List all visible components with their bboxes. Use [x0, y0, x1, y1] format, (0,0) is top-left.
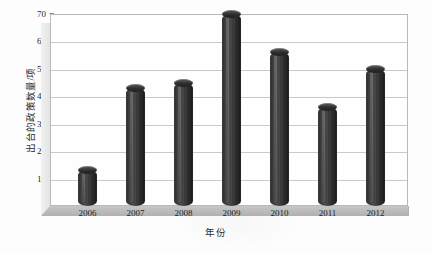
x-tick-label-2009: 2009 [209, 208, 255, 218]
bar-chart-figure: 出台的政策数量/项 0 10 20 30 40 50 60 70 [0, 0, 431, 253]
bar-highlight [274, 53, 277, 203]
bar-texture [366, 69, 385, 206]
bar-body [222, 14, 241, 206]
x-tick-label-2012: 2012 [353, 208, 399, 218]
bar-2010 [270, 52, 289, 206]
bar-top-cap [222, 10, 241, 18]
bar-highlight [178, 84, 181, 203]
bar-texture [126, 88, 145, 206]
bar-2011 [318, 107, 337, 206]
bar-highlight [370, 70, 373, 203]
bar-top-cap [366, 65, 385, 73]
bar-texture [270, 52, 289, 206]
plot-area [50, 14, 408, 206]
bar-body [270, 52, 289, 206]
bar-highlight [82, 171, 85, 203]
bar-texture [78, 170, 97, 206]
bar-highlight [226, 15, 229, 203]
bar-texture [174, 83, 193, 206]
x-tick-label-2010: 2010 [257, 208, 303, 218]
bar-body [174, 83, 193, 206]
bar-body [318, 107, 337, 206]
bar-body [366, 69, 385, 206]
x-axis-title: 年份 [0, 225, 431, 239]
bar-highlight [322, 108, 325, 203]
bar-top-cap [174, 79, 193, 87]
x-tick-label-2007: 2007 [113, 208, 159, 218]
bar-body [126, 88, 145, 206]
bar-top-cap [126, 84, 145, 92]
plot-right-edge [408, 206, 409, 216]
x-tick-label-2011: 2011 [305, 208, 351, 218]
bar-body [78, 170, 97, 206]
bar-2007 [126, 88, 145, 206]
x-tick-label-2008: 2008 [161, 208, 207, 218]
x-axis-tick-labels: 2006 2007 2008 2009 2010 2011 2012 [50, 208, 408, 222]
bar-2012 [366, 69, 385, 206]
y-tick-label: 70 [24, 9, 46, 19]
x-tick-label-2006: 2006 [65, 208, 111, 218]
bar-texture [318, 107, 337, 206]
bar-2006 [78, 170, 97, 206]
bar-texture [222, 14, 241, 206]
bar-highlight [130, 89, 133, 203]
plot-left-wall [41, 23, 50, 215]
bar-2009 [222, 14, 241, 206]
bar-2008 [174, 83, 193, 206]
